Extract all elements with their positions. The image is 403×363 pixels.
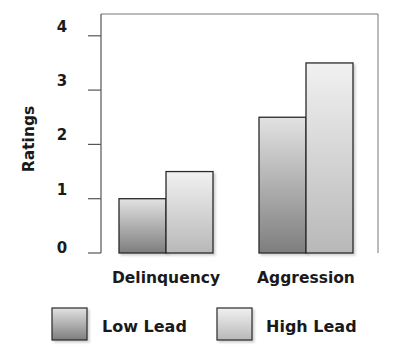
y-tick-label: 2: [57, 126, 67, 144]
bar-chart: 01234 Ratings DelinquencyAggression Low …: [0, 0, 403, 363]
legend-item-low-lead: Low Lead: [52, 308, 187, 340]
bar-delinquency-low-lead: [119, 199, 166, 253]
legend-swatch-high-lead: [217, 308, 252, 340]
category-label-delinquency: Delinquency: [112, 269, 220, 287]
legend-swatch-low-lead: [52, 308, 87, 340]
y-tick-label: 1: [57, 181, 67, 199]
legend: Low Lead High Lead: [52, 308, 357, 340]
y-tick-label: 0: [57, 239, 67, 257]
bar-delinquency-high-lead: [166, 172, 213, 253]
legend-item-high-lead: High Lead: [217, 308, 357, 340]
category-label-aggression: Aggression: [257, 269, 355, 287]
y-axis-ticks: 01234: [57, 18, 101, 257]
y-tick-label: 4: [57, 18, 67, 36]
bar-aggression-low-lead: [259, 117, 306, 253]
category-labels: DelinquencyAggression: [112, 269, 355, 287]
legend-label-low-lead: Low Lead: [102, 317, 187, 336]
y-tick-label: 3: [57, 72, 67, 90]
bars-group: [119, 63, 353, 253]
y-axis-title: Ratings: [20, 106, 38, 172]
bar-aggression-high-lead: [306, 63, 353, 253]
legend-label-high-lead: High Lead: [266, 317, 357, 336]
